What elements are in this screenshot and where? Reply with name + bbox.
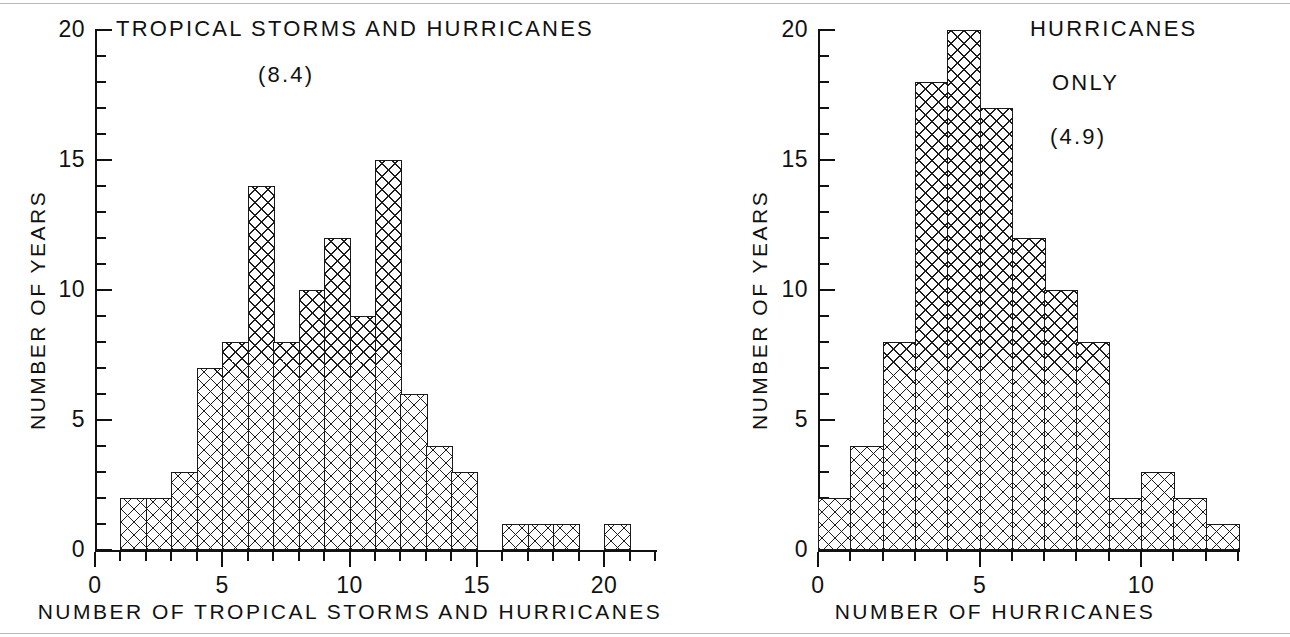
y-axis-tick-label: 15 [33,148,85,171]
x-axis-minor-tick [145,552,147,561]
x-axis-minor-tick [323,552,325,561]
plot-area-right: 051015200510 [818,30,1238,550]
x-axis-line [95,550,657,552]
x-axis-title: NUMBER OF TROPICAL STORMS AND HURRICANES [0,600,700,624]
histogram-bar [400,394,427,550]
histogram-bar [604,524,631,550]
x-axis-tick-label: 20 [574,574,634,597]
x-axis-major-tick [221,552,223,567]
x-axis-minor-tick [1205,552,1207,561]
y-axis-tick-label: 5 [33,408,85,431]
histogram-bar [324,238,351,550]
x-axis-minor-tick [1075,552,1077,561]
histogram-bar [883,342,917,550]
x-axis-minor-tick [1108,552,1110,561]
histogram-bar [299,290,326,550]
y-axis-tick-label: 20 [756,18,808,41]
histogram-bar [502,524,529,550]
histogram-bar [146,498,173,550]
x-axis-minor-tick [196,552,198,561]
x-axis-minor-tick [119,552,121,561]
panel-tropical-storms-and-hurricanes: TROPICAL STORMS AND HURRICANES (8.4) NUM… [0,0,700,637]
histogram-bar [273,342,300,550]
x-axis-minor-tick [578,552,580,561]
plot-area-left: 0510152005101520 [95,30,655,550]
x-axis-minor-tick [298,552,300,561]
x-axis-minor-tick [552,552,554,561]
histogram-bar [1044,290,1078,550]
panel-hurricanes-only: HURRICANES ONLY (4.9) NUMBER OF YEARS NU… [700,0,1290,637]
x-axis-minor-tick [374,552,376,561]
x-axis-major-tick [349,552,351,567]
x-axis-tick-label: 10 [1111,574,1171,597]
histogram-bar [222,342,249,550]
x-axis-minor-tick [914,552,916,561]
x-axis-minor-tick [882,552,884,561]
x-axis-minor-tick [1172,552,1174,561]
x-axis-title: NUMBER OF HURRICANES [700,600,1290,624]
histogram-bar [553,524,580,550]
x-axis-tick-label: 0 [65,574,125,597]
x-axis-minor-tick [1043,552,1045,561]
histogram-bar [528,524,555,550]
x-axis-major-tick [1140,552,1142,567]
histogram-bar [248,186,275,550]
x-axis-minor-tick [946,552,948,561]
x-axis-minor-tick [170,552,172,561]
histogram-bar [426,446,453,550]
x-axis-minor-tick [527,552,529,561]
figure-canvas: TROPICAL STORMS AND HURRICANES (8.4) NUM… [0,0,1290,637]
x-axis-tick-label: 0 [788,574,848,597]
x-axis-minor-tick [425,552,427,561]
bar-series [818,30,1238,550]
x-axis-minor-tick [849,552,851,561]
histogram-bar [980,108,1014,550]
x-axis-tick-label: 10 [320,574,380,597]
histogram-bar [451,472,478,550]
x-axis-tick-label: 5 [950,574,1010,597]
histogram-bar [120,498,147,550]
x-axis-tick-label: 15 [447,574,507,597]
y-axis-tick-label: 15 [756,148,808,171]
y-axis-tick-label: 10 [756,278,808,301]
x-axis-minor-tick [450,552,452,561]
x-axis-major-tick [603,552,605,567]
y-axis-tick-label: 10 [33,278,85,301]
histogram-bar [1012,238,1046,550]
y-axis-tick-label: 0 [756,538,808,561]
x-axis-minor-tick [654,552,656,561]
y-axis-title: NUMBER OF YEARS [26,190,50,430]
histogram-bar [1141,472,1175,550]
histogram-bar [171,472,198,550]
x-axis-minor-tick [399,552,401,561]
x-axis-major-tick [94,552,96,567]
x-axis-major-tick [979,552,981,567]
x-axis-minor-tick [247,552,249,561]
histogram-bar [915,82,949,550]
y-axis-title: NUMBER OF YEARS [748,190,772,430]
y-axis-tick-label: 5 [756,408,808,431]
y-axis-tick-label: 0 [33,538,85,561]
x-axis-minor-tick [501,552,503,561]
x-axis-tick-label: 5 [192,574,252,597]
histogram-bar [850,446,884,550]
histogram-bar [947,30,981,550]
histogram-bar [1076,342,1110,550]
histogram-bar [350,316,377,550]
histogram-bar [1206,524,1240,550]
histogram-bar [1109,498,1143,550]
x-axis-minor-tick [1237,552,1239,561]
x-axis-major-tick [476,552,478,567]
x-axis-major-tick [817,552,819,567]
x-axis-minor-tick [272,552,274,561]
x-axis-minor-tick [1011,552,1013,561]
histogram-bar [818,498,852,550]
y-axis-tick-label: 20 [33,18,85,41]
histogram-bar [1173,498,1207,550]
x-axis-minor-tick [629,552,631,561]
bar-series [95,30,655,550]
histogram-bar [375,160,402,550]
histogram-bar [197,368,224,550]
